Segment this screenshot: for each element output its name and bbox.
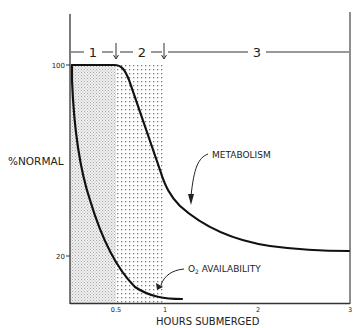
y-tick-label-100: 100 <box>52 62 65 70</box>
x-tick-label-1: 1 <box>163 306 167 314</box>
phase-label-2: 2 <box>138 45 146 60</box>
phase-1-shading <box>70 65 116 303</box>
x-axis-title: HOURS SUBMERGED <box>156 316 260 327</box>
x-tick-label-0.5: 0.5 <box>111 306 121 314</box>
y-tick-label-20: 20 <box>56 253 65 261</box>
phase-label-3: 3 <box>253 45 261 60</box>
y-axis-title: %NORMAL <box>8 155 64 167</box>
metabolism-arrowhead <box>188 194 194 205</box>
o2-availability-label: O2 AVAILABILITY <box>188 264 261 275</box>
x-tick-label-3: 3 <box>348 306 352 314</box>
chart-canvas: 100 20 0.5 1 2 3 %NORMAL HOURS SUBMERGED… <box>0 0 362 328</box>
phase-brackets <box>71 43 349 59</box>
metabolism-label: METABOLISM <box>212 150 271 160</box>
x-tick-label-2: 2 <box>256 306 260 314</box>
metabolism-arrow <box>191 154 208 196</box>
phase-2-shading <box>116 65 165 303</box>
phase-label-1: 1 <box>89 45 97 60</box>
